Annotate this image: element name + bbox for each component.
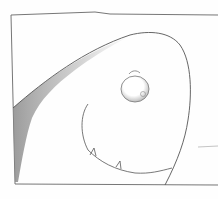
background-line bbox=[198, 146, 218, 147]
sketch-canvas bbox=[0, 0, 218, 199]
eye-icon bbox=[121, 76, 149, 102]
tooth-icon bbox=[116, 161, 121, 169]
back-shading bbox=[13, 37, 128, 182]
head-outline bbox=[13, 32, 190, 185]
mouth-line bbox=[82, 104, 172, 173]
eyebrow-line bbox=[129, 71, 140, 74]
sketch-drawing bbox=[0, 0, 218, 199]
